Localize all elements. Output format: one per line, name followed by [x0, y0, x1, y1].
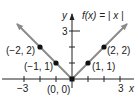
point-neg2-2 — [37, 44, 42, 49]
label-point-1-1: (1, 1) — [92, 61, 115, 72]
y-ticks — [69, 31, 80, 63]
y-axis-label: y — [61, 10, 68, 21]
x-tick-label-3: 3 — [118, 83, 124, 94]
label-point-neg1-1: (−1, 1) — [24, 61, 53, 72]
x-tick-label-neg3: −3 — [17, 83, 29, 94]
point-1-1 — [85, 60, 90, 65]
point-2-2 — [101, 44, 106, 49]
label-point-neg2-2: (−2, 2) — [6, 45, 35, 56]
point-origin — [70, 77, 75, 82]
function-label: f(x) = | x | — [82, 10, 124, 21]
x-axis-label: x — [128, 83, 135, 94]
label-point-2-2: (2, 2) — [107, 45, 130, 56]
y-tick-label-3: 3 — [62, 26, 68, 37]
label-point-origin: (0, 0) — [47, 84, 70, 95]
abs-value-chart: y f(x) = | x | 3 (−2, 2) (−1, 1) (2, 2) … — [0, 0, 138, 98]
point-neg1-1 — [53, 60, 58, 65]
